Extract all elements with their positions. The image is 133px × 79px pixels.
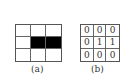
caption-a: (a) (31, 64, 43, 74)
matrix-cell: 0 (106, 25, 119, 37)
grid-a-cell-r2c2 (31, 37, 46, 49)
matrix-cell: 1 (94, 37, 107, 49)
matrix-cell: 0 (81, 49, 94, 61)
matrix-cell: 0 (81, 25, 94, 37)
grid-a-cell-r1c1 (16, 25, 31, 37)
grid-a-cell-r3c2 (31, 49, 46, 61)
grid-a-cell-r1c2 (31, 25, 46, 37)
grid-a-cell-r1c3 (46, 25, 61, 37)
grid-a-cell-r2c3 (46, 37, 61, 49)
grid-a-cell-r3c1 (16, 49, 31, 61)
grid-a-cell-r3c3 (46, 49, 61, 61)
caption-b: (b) (91, 64, 104, 74)
matrix-cell: 0 (94, 25, 107, 37)
matrix-cell: 0 (106, 49, 119, 61)
binary-image-grid (15, 24, 62, 62)
matrix-cell: 0 (94, 49, 107, 61)
matrix-cell: 1 (106, 37, 119, 49)
matrix-cell: 0 (81, 37, 94, 49)
grid-a-cell-r2c1 (16, 37, 31, 49)
value-matrix-grid: 0 0 0 0 1 1 0 0 0 (80, 24, 120, 62)
